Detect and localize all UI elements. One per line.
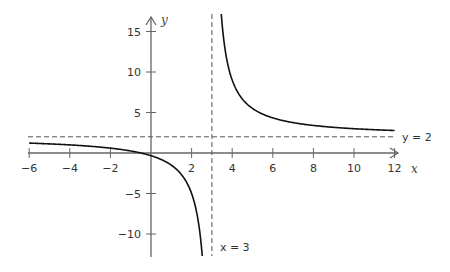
y-axis-label: y: [160, 13, 168, 27]
x-tick-label: 6: [269, 162, 276, 175]
y-tick-label: 5: [134, 107, 141, 120]
y-tick-label: 10: [127, 66, 141, 79]
function-graph: −6−4−22468101215105−5−10 x y x = 3 y = 2: [0, 0, 450, 272]
horizontal-asymptote-label: y = 2: [402, 131, 432, 144]
x-tick-label: −6: [21, 162, 37, 175]
x-tick-label: 10: [347, 162, 361, 175]
x-tick-label: 4: [229, 162, 236, 175]
left-branch-curve: [29, 143, 202, 256]
x-tick-label: −2: [102, 162, 118, 175]
y-tick-label: −5: [125, 188, 141, 201]
x-tick-label: 8: [310, 162, 317, 175]
y-tick-label: 15: [127, 26, 141, 39]
right-branch-curve: [221, 14, 394, 131]
x-axis-label: x: [411, 162, 418, 176]
x-tick-label: 2: [188, 162, 195, 175]
asymptotes: [28, 14, 395, 256]
axis-ticks: −6−4−22468101215105−5−10: [21, 26, 402, 242]
x-tick-label: 12: [388, 162, 402, 175]
y-tick-label: −10: [118, 228, 141, 241]
vertical-asymptote-label: x = 3: [220, 241, 250, 254]
x-tick-label: −4: [62, 162, 78, 175]
